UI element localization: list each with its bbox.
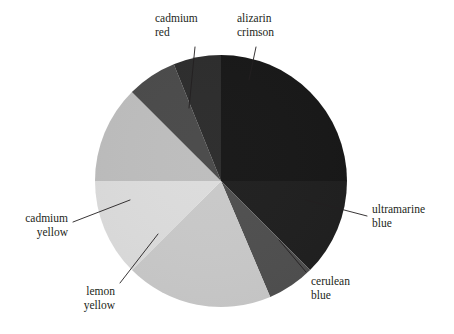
label-ultramarine-blue-line2: blue <box>372 217 425 231</box>
label-cadmium-red-line1: cadmium <box>155 12 198 26</box>
label-cadmium-yellow-line2: yellow <box>0 226 68 240</box>
label-lemon-yellow-line1: lemon <box>37 285 115 299</box>
label-alizarin-crimson: alizarin crimson <box>237 12 274 39</box>
color-wheel-graphic <box>0 0 454 334</box>
label-cadmium-red-line2: red <box>155 26 198 40</box>
label-cadmium-red: cadmium red <box>155 12 198 39</box>
label-cadmium-yellow: cadmium yellow <box>0 212 68 239</box>
label-alizarin-crimson-line1: alizarin <box>237 12 274 26</box>
color-wheel-figure: cadmium red alizarin crimson ultramarine… <box>0 0 454 334</box>
wheel-texture-overlay <box>95 55 347 307</box>
label-lemon-yellow-line2: yellow <box>37 299 115 313</box>
label-cerulean-blue: cerulean blue <box>311 275 350 302</box>
label-cerulean-blue-line1: cerulean <box>311 275 350 289</box>
label-ultramarine-blue: ultramarine blue <box>372 203 425 230</box>
label-cadmium-yellow-line1: cadmium <box>0 212 68 226</box>
label-alizarin-crimson-line2: crimson <box>237 26 274 40</box>
label-ultramarine-blue-line1: ultramarine <box>372 203 425 217</box>
label-cerulean-blue-line2: blue <box>311 289 350 303</box>
label-lemon-yellow: lemon yellow <box>37 285 115 312</box>
